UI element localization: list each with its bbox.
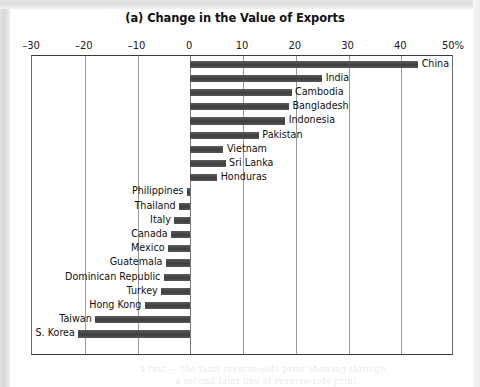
bar-row: Hong Kong bbox=[32, 299, 452, 313]
bar-row: Indonesia bbox=[32, 114, 452, 128]
x-axis-tick-labels: –30–20–1001020304050% bbox=[0, 40, 480, 54]
bar-italy bbox=[174, 217, 190, 224]
x-tick-0: –30 bbox=[22, 40, 40, 51]
bar-label: Cambodia bbox=[295, 85, 344, 99]
bar-row: Thailand bbox=[32, 200, 452, 214]
x-tick-7: 40 bbox=[394, 40, 407, 51]
bar-row: Philippines bbox=[32, 185, 452, 199]
bar-label: Italy bbox=[150, 213, 171, 227]
chart-title: (a) Change in the Value of Exports bbox=[0, 11, 470, 25]
bar-guatemala bbox=[166, 259, 190, 266]
x-tick-4: 10 bbox=[236, 40, 249, 51]
x-tick-8: 50% bbox=[442, 40, 464, 51]
bar-chart-figure: (a) Change in the Value of Exports –30–2… bbox=[0, 0, 480, 387]
bar-row: Bangladesh bbox=[32, 100, 452, 114]
bar-dominican-republic bbox=[164, 274, 190, 281]
bar-cambodia bbox=[190, 89, 291, 96]
bar-label: India bbox=[326, 71, 350, 85]
plot-area: ChinaIndiaCambodiaBangladeshIndonesiaPak… bbox=[31, 55, 453, 355]
bar-china bbox=[190, 61, 418, 68]
bar-row: S. Korea bbox=[32, 327, 452, 341]
bar-row: Taiwan bbox=[32, 313, 452, 327]
x-tick-3: 0 bbox=[186, 40, 192, 51]
bar-sri-lanka bbox=[190, 160, 225, 167]
bar-label: Bangladesh bbox=[292, 99, 348, 113]
bar-row: Italy bbox=[32, 214, 452, 228]
bar-s-korea bbox=[78, 330, 190, 337]
bar-label: Guatemala bbox=[110, 255, 163, 269]
bar-row: Pakistan bbox=[32, 129, 452, 143]
bar-indonesia bbox=[190, 117, 285, 124]
bar-pakistan bbox=[190, 132, 259, 139]
bar-label: Philippines bbox=[132, 184, 184, 198]
bar-row: China bbox=[32, 58, 452, 72]
bar-series: ChinaIndiaCambodiaBangladeshIndonesiaPak… bbox=[32, 56, 452, 354]
x-tick-6: 30 bbox=[341, 40, 354, 51]
bar-thailand bbox=[179, 203, 190, 210]
bar-turkey bbox=[161, 288, 190, 295]
bar-label: Pakistan bbox=[262, 128, 302, 142]
bar-honduras bbox=[190, 174, 217, 181]
bar-label: Thailand bbox=[134, 199, 175, 213]
bar-row: Canada bbox=[32, 228, 452, 242]
bar-label: Mexico bbox=[131, 241, 165, 255]
bar-canada bbox=[171, 231, 190, 238]
bar-row: Vietnam bbox=[32, 143, 452, 157]
x-tick-2: –10 bbox=[128, 40, 146, 51]
bar-vietnam bbox=[190, 146, 223, 153]
bar-label: Sri Lanka bbox=[229, 156, 273, 170]
bar-row: Turkey bbox=[32, 285, 452, 299]
bar-label: S. Korea bbox=[36, 326, 75, 340]
bar-label: Hong Kong bbox=[89, 298, 141, 312]
bar-label: Taiwan bbox=[59, 312, 92, 326]
x-tick-1: –20 bbox=[75, 40, 93, 51]
bar-hong-kong bbox=[145, 302, 190, 309]
bar-taiwan bbox=[95, 316, 190, 323]
bar-mexico bbox=[168, 245, 190, 252]
bar-label: Honduras bbox=[221, 170, 267, 184]
bar-row: Sri Lanka bbox=[32, 157, 452, 171]
bar-bangladesh bbox=[190, 103, 289, 110]
bar-label: China bbox=[422, 57, 449, 71]
bar-row: Mexico bbox=[32, 242, 452, 256]
bar-label: Vietnam bbox=[227, 142, 267, 156]
x-tick-5: 20 bbox=[288, 40, 301, 51]
bar-row: Dominican Republic bbox=[32, 271, 452, 285]
bar-label: Canada bbox=[131, 227, 168, 241]
bar-label: Turkey bbox=[127, 284, 158, 298]
bar-india bbox=[190, 75, 322, 82]
bar-label: Dominican Republic bbox=[65, 270, 160, 284]
bar-row: Guatemala bbox=[32, 256, 452, 270]
bar-row: India bbox=[32, 72, 452, 86]
bar-row: Honduras bbox=[32, 171, 452, 185]
bar-label: Indonesia bbox=[289, 113, 335, 127]
bar-row: Cambodia bbox=[32, 86, 452, 100]
bar-philippines bbox=[187, 188, 190, 195]
